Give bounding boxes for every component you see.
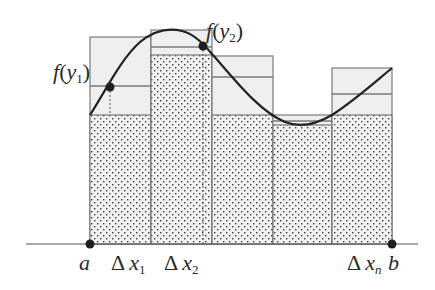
label-delta-x1: Δx1 <box>111 250 145 277</box>
label-f-y2: f(y2) <box>206 18 243 45</box>
point-marker <box>388 240 397 249</box>
lower-rectangle-dotted <box>332 115 392 244</box>
riemann-rectangle <box>332 68 392 244</box>
lower-rectangle-dotted <box>212 115 273 244</box>
lower-rectangle-dotted <box>90 115 151 244</box>
lower-rectangle-dotted <box>273 125 332 244</box>
riemann-rectangle <box>90 37 151 244</box>
label-delta-x2: Δx2 <box>164 250 198 277</box>
point-marker <box>106 83 115 92</box>
riemann-rectangle <box>273 115 332 244</box>
riemann-rectangle <box>212 56 273 244</box>
label-b: b <box>388 250 399 275</box>
riemann-sum-diagram: f(y1) f(y2) a Δx1 Δx2 Δxn b <box>0 0 435 290</box>
point-marker <box>86 240 95 249</box>
rectangles-group <box>90 30 392 244</box>
label-a: a <box>79 250 90 275</box>
label-delta-xn: Δxn <box>347 250 381 277</box>
label-f-y1: f(y1) <box>53 59 90 86</box>
